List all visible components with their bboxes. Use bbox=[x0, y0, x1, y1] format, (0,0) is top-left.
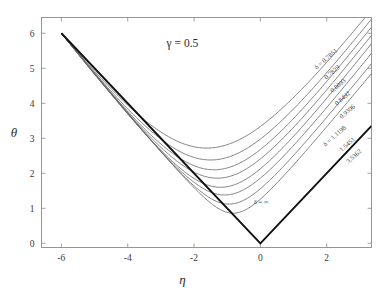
x-tick-label: -6 bbox=[57, 253, 65, 263]
curve-label: 3.5362 bbox=[344, 147, 362, 164]
x-tick-label: -4 bbox=[124, 253, 132, 263]
y-tick-label: 6 bbox=[30, 29, 35, 39]
curve-labels-group: δ = 0.78510.78290.80930.84920.9396δ = 1.… bbox=[254, 47, 363, 205]
y-tick-label: 0 bbox=[30, 239, 35, 249]
axes-group: -6-4-2020123456ηθ bbox=[11, 18, 372, 287]
x-axis-title: η bbox=[179, 272, 185, 287]
curve-label: 0.7829 bbox=[323, 63, 342, 81]
y-axis-title: θ bbox=[11, 125, 18, 140]
chart-canvas: -6-4-2020123456ηθ δ = 0.78510.78290.8093… bbox=[0, 0, 382, 302]
data-curve bbox=[61, 27, 371, 170]
curves-group bbox=[61, 10, 371, 244]
x-tick-label: 2 bbox=[324, 253, 329, 263]
y-tick-label: 5 bbox=[30, 64, 35, 74]
curve-label: 0.9396 bbox=[338, 102, 357, 120]
y-tick-label: 4 bbox=[30, 99, 35, 109]
curve-label: δ = ∞ bbox=[254, 198, 269, 205]
y-tick-label: 1 bbox=[30, 204, 35, 214]
annotations-group: γ = 0.5 bbox=[166, 37, 199, 50]
figure-container: -6-4-2020123456ηθ δ = 0.78510.78290.8093… bbox=[0, 0, 382, 302]
x-tick-label: 0 bbox=[258, 253, 263, 263]
y-tick-label: 2 bbox=[30, 169, 35, 179]
gamma-annotation: γ = 0.5 bbox=[166, 37, 199, 50]
x-tick-label: -2 bbox=[190, 253, 198, 263]
y-tick-label: 3 bbox=[30, 134, 35, 144]
